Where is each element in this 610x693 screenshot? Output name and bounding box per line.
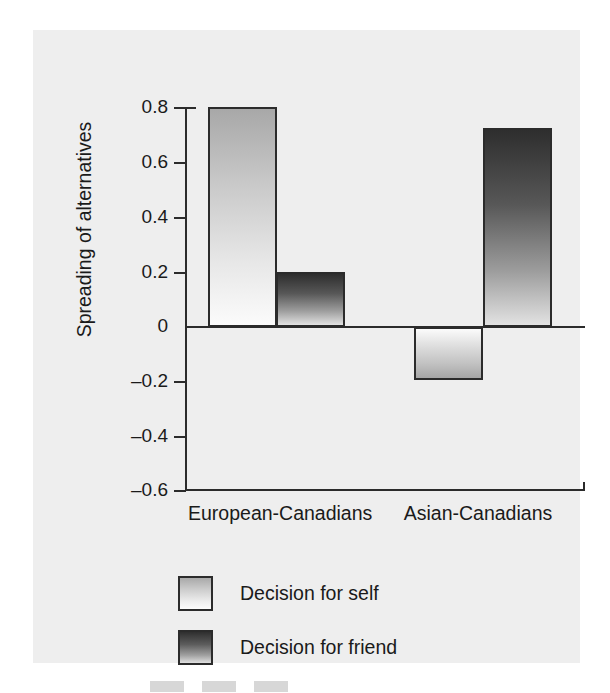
y-tick-label: 0.8 (96, 97, 168, 116)
legend-label: Decision for self (240, 582, 379, 605)
y-tick-mark (174, 490, 186, 492)
y-tick-row: 0.8 (33, 97, 168, 117)
y-tick-row: 0.4 (33, 207, 168, 227)
x-axis-category-label: European-Canadians (188, 502, 368, 525)
y-tick-mark (174, 217, 186, 219)
y-tick-row: –0.4 (33, 426, 168, 446)
y-tick-row: 0.6 (33, 152, 168, 172)
y-tick-mark (174, 436, 186, 438)
y-tick-label: –0.2 (96, 371, 168, 390)
legend-swatch-self (178, 576, 213, 611)
bar-asian-canadians-self (414, 327, 483, 380)
bar-european-canadians-self (208, 107, 277, 327)
scan-mark (254, 681, 288, 692)
y-tick-row: 0.2 (33, 262, 168, 282)
y-axis-line (185, 107, 187, 491)
y-tick-label: 0.4 (96, 207, 168, 226)
y-tick-mark (174, 272, 186, 274)
legend-swatch-friend (178, 630, 213, 665)
y-axis-top-cap (185, 107, 196, 109)
x-axis-category-label: Asian-Canadians (388, 502, 568, 525)
bar-asian-canadians-friend (483, 128, 552, 327)
bar-european-canadians-friend (276, 272, 345, 327)
figure-panel: 0.80.60.40.20–0.2–0.4–0.6 Spreading of a… (33, 30, 580, 663)
y-tick-label: 0 (96, 316, 168, 335)
y-tick-row: 0 (33, 316, 168, 336)
y-tick-label: –0.6 (96, 480, 168, 499)
scan-mark (202, 681, 236, 692)
x-axis-right-cap (583, 482, 585, 491)
y-tick-row: –0.6 (33, 480, 168, 500)
y-tick-label: 0.6 (96, 152, 168, 171)
y-tick-mark (174, 162, 186, 164)
legend-label: Decision for friend (240, 636, 397, 659)
x-axis-line (185, 489, 585, 491)
y-tick-mark (174, 381, 186, 383)
y-tick-mark (174, 107, 186, 109)
scan-artifact-marks (150, 681, 310, 693)
y-tick-label: –0.4 (96, 426, 168, 445)
y-axis-title: Spreading of alternatives (73, 105, 96, 355)
y-tick-row: –0.2 (33, 371, 168, 391)
scan-mark (150, 681, 184, 692)
y-tick-label: 0.2 (96, 262, 168, 281)
chart-page: 0.80.60.40.20–0.2–0.4–0.6 Spreading of a… (0, 0, 610, 693)
